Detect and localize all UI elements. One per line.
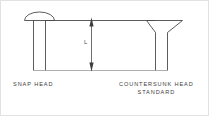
countersunk-head-rivet — [147, 21, 183, 71]
frame-border — [1, 1, 209, 116]
drawing-canvas: L SNAP HEAD COUNTERSUNK HEAD STANDARD — [0, 0, 209, 116]
countersunk-caption-line2: STANDARD — [119, 88, 194, 96]
dimension-label: L — [84, 39, 87, 45]
countersunk-head-right-taper — [168, 21, 183, 33]
snap-head-dome — [25, 12, 55, 21]
countersunk-caption-line1: COUNTERSUNK HEAD — [119, 81, 194, 87]
dimension-line — [89, 18, 93, 72]
rivet-head-diagram — [0, 0, 209, 116]
countersunk-head-caption: COUNTERSUNK HEAD STANDARD — [119, 80, 194, 96]
countersunk-head-left-taper — [147, 21, 156, 33]
arrow-up-icon — [89, 18, 93, 27]
snap-head-caption: SNAP HEAD — [13, 80, 53, 88]
